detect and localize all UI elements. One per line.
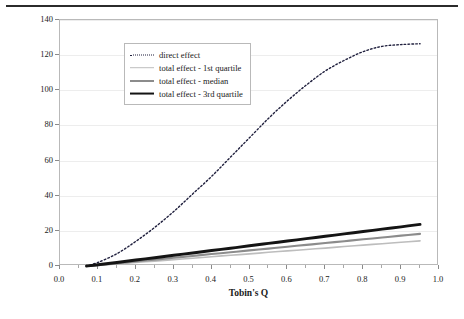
x-tick-label-0.4: 0.4 [196,275,226,284]
legend-label-1: total effect - 1st quartile [159,63,241,73]
legend-item-2: total effect - median [130,74,243,87]
chart-figure: Managerial and board ownership 020406080… [0,0,464,319]
x-tick-label-0.0: 0.0 [44,275,74,284]
x-tick-label-0.2: 0.2 [120,275,150,284]
legend-item-1: total effect - 1st quartile [130,61,243,74]
y-tick-label-100: 100 [27,85,53,94]
plot-area: direct effecttotal effect - 1st quartile… [59,19,438,265]
legend-item-0: direct effect [130,48,243,61]
x-tick-label-1.0: 1.0 [423,275,453,284]
y-tick-label-60: 60 [27,156,53,165]
x-tick-label-0.3: 0.3 [158,275,188,284]
x-tick-label-0.1: 0.1 [82,275,112,284]
x-tick-label-0.6: 0.6 [271,275,301,284]
legend-swatch-1 [130,63,154,73]
y-tick-label-120: 120 [27,50,53,59]
legend-item-3: total effect - 3rd quartile [130,87,243,100]
y-tick-label-20: 20 [27,226,53,235]
legend-swatch-2 [130,76,154,86]
y-tick-label-80: 80 [27,120,53,129]
x-tick-label-0.7: 0.7 [309,275,339,284]
legend-label-0: direct effect [159,50,200,60]
x-tick-label-0.9: 0.9 [385,275,415,284]
y-tick-label-0: 0 [27,261,53,270]
legend-swatch-0 [130,50,154,60]
y-tick-label-140: 140 [27,15,53,24]
x-tick-label-0.8: 0.8 [347,275,377,284]
chart-legend: direct effecttotal effect - 1st quartile… [124,43,251,105]
legend-label-3: total effect - 3rd quartile [159,89,243,99]
legend-swatch-3 [130,89,154,99]
x-tick-label-0.5: 0.5 [234,275,264,284]
y-tick-label-40: 40 [27,191,53,200]
legend-label-2: total effect - median [159,76,228,86]
x-axis-title: Tobin's Q [59,288,438,298]
